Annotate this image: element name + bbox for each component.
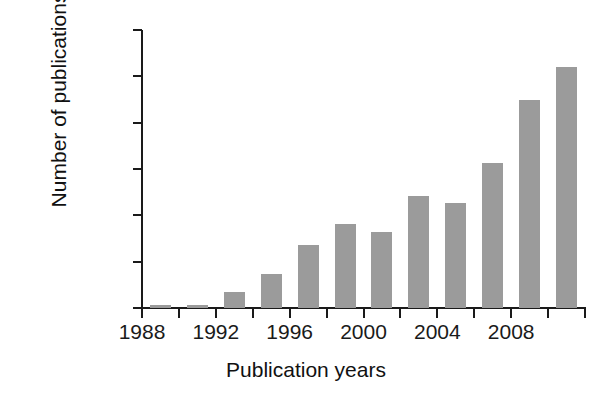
x-tick-2010 (547, 309, 549, 318)
x-tick-1990 (178, 309, 180, 318)
bar-chart-figure: 0100200300400500600 19881992199620002004… (0, 0, 612, 397)
x-tick-1996 (289, 309, 291, 318)
bar-2011 (556, 67, 577, 308)
y-tick-500 (133, 75, 142, 77)
y-tick-400 (133, 122, 142, 124)
x-axis-title: Publication years (0, 358, 612, 382)
y-tick-200 (133, 214, 142, 216)
x-tick-2004 (436, 309, 438, 318)
bar-2009 (519, 100, 540, 309)
x-tick-1994 (252, 309, 254, 318)
x-tick-2002 (399, 309, 401, 318)
bar-1993 (224, 292, 245, 308)
bar-2001 (371, 232, 392, 308)
x-tick-2006 (473, 309, 475, 318)
x-tick-label-1996: 1996 (266, 320, 313, 344)
bar-1991 (187, 305, 208, 308)
x-tick-1992 (215, 309, 217, 318)
y-tick-600 (133, 29, 142, 31)
bar-1989 (150, 305, 171, 308)
x-tick-2000 (363, 309, 365, 318)
bar-1999 (335, 224, 356, 308)
bar-2007 (482, 163, 503, 308)
x-tick-2008 (510, 309, 512, 318)
bar-1997 (298, 245, 319, 308)
x-tick-label-1992: 1992 (192, 320, 239, 344)
x-tick-2012 (584, 309, 586, 318)
x-tick-1988 (141, 309, 143, 318)
bar-2005 (445, 203, 466, 308)
bar-1995 (261, 274, 282, 308)
y-tick-300 (133, 168, 142, 170)
x-tick-label-2008: 2008 (488, 320, 535, 344)
y-tick-100 (133, 261, 142, 263)
x-tick-label-1988: 1988 (119, 320, 166, 344)
y-axis-title: Number of publications (47, 0, 71, 215)
bar-2003 (408, 196, 429, 308)
x-tick-label-2004: 2004 (414, 320, 461, 344)
x-tick-label-2000: 2000 (340, 320, 387, 344)
x-tick-1998 (326, 309, 328, 318)
